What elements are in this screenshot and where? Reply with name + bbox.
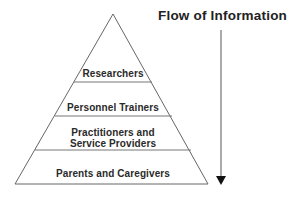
pyramid-outline — [15, 14, 208, 184]
flow-arrowhead-icon — [216, 176, 226, 185]
tier-researchers: Researchers — [63, 68, 163, 79]
tier-practitioners-line1: Practitioners and — [43, 127, 183, 138]
flow-of-information-label: Flow of Information — [158, 8, 306, 23]
tier-personnel-trainers: Personnel Trainers — [43, 102, 183, 113]
tier-practitioners-line2: Service Providers — [43, 138, 183, 149]
tier-parents-caregivers: Parents and Caregivers — [23, 168, 203, 179]
